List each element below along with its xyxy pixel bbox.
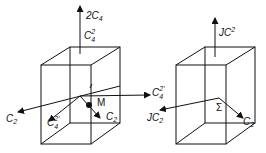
label-2c4: 2C4 <box>86 11 103 22</box>
label-c2-left: C2 <box>6 114 17 125</box>
label-sigma: Σ <box>216 103 222 113</box>
symmetry-diagram <box>0 0 266 153</box>
label-c4-squared: C24 <box>84 31 101 41</box>
label-c4-2prime-right: C2'4 <box>152 88 169 98</box>
left-prism <box>18 6 150 144</box>
label-c2-right-diag: C2 <box>243 117 254 128</box>
point-m-marker <box>86 102 92 108</box>
label-c4-2prime-front: C2'4 <box>47 118 64 128</box>
label-c2-diag: C2 <box>106 112 117 123</box>
right-prism <box>160 18 255 144</box>
label-jc2: JC2 <box>147 113 163 124</box>
label-jc-squared: JC2 <box>219 26 235 38</box>
label-point-m: M <box>97 98 105 108</box>
